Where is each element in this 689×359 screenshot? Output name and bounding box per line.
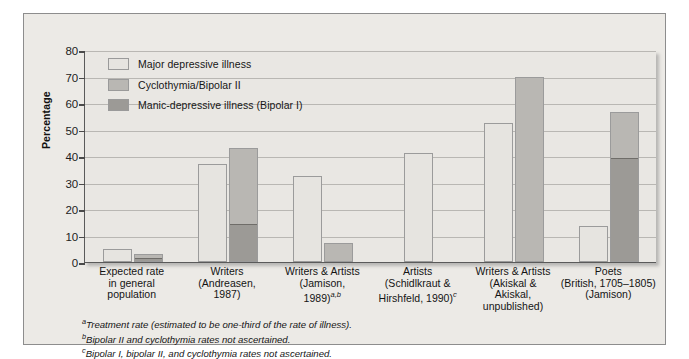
y-axis-tick-label: 60 <box>50 98 78 110</box>
x-axis-category-label: Writers(Andreasen,1987) <box>179 266 274 301</box>
chart-panel: Percentage 01020304050607080 Major depre… <box>23 13 666 345</box>
bar-group <box>562 51 657 262</box>
y-axis-tick-label: 80 <box>50 45 78 57</box>
bar-bipolar-stacked[interactable] <box>515 77 544 263</box>
x-axis-labels: Expected ratein generalpopulationWriters… <box>84 266 656 314</box>
x-axis-category-label: Writers & Artists(Jamison,1989)a,b <box>275 266 370 304</box>
x-axis-category-label: Poets(British, 1705–1805)(Jamison) <box>561 266 656 301</box>
x-axis-category-label: Artists(Schidlkraut &Hirshfeld, 1990)c <box>370 266 465 304</box>
legend-swatch-icon <box>108 99 129 111</box>
x-axis-category-label: Expected ratein generalpopulation <box>84 266 179 301</box>
y-axis-tick-label: 50 <box>50 125 78 137</box>
footnotes: aTreatment rate (estimated to be one-thi… <box>82 316 642 359</box>
bar-bipolar-stacked[interactable] <box>229 148 258 262</box>
bar-major-depressive-illness[interactable] <box>579 226 608 262</box>
bar-group <box>371 51 466 262</box>
bar-bipolar-stacked[interactable] <box>610 112 639 262</box>
figure-container: Percentage 01020304050607080 Major depre… <box>0 0 689 359</box>
y-axis-tick-label: 20 <box>50 204 78 216</box>
bar-segment-bipolar-i <box>611 158 638 261</box>
legend-item[interactable]: Cyclothymia/Bipolar II <box>108 79 303 91</box>
bar-major-depressive-illness[interactable] <box>404 153 433 262</box>
footnote: cBipolar I, bipolar II, and cyclothymia … <box>82 345 642 359</box>
bar-group <box>466 51 561 262</box>
legend-label: Cyclothymia/Bipolar II <box>138 79 241 91</box>
y-axis-tick-label: 0 <box>50 257 78 269</box>
y-axis-tick-label: 70 <box>50 72 78 84</box>
y-axis-tick-label: 40 <box>50 151 78 163</box>
bar-major-depressive-illness[interactable] <box>103 249 132 262</box>
footnote: bBipolar II and cyclothymia rates not as… <box>82 331 642 346</box>
chart-legend: Major depressive illnessCyclothymia/Bipo… <box>108 58 303 120</box>
legend-label: Manic-depressive illness (Bipolar I) <box>138 99 303 111</box>
footnote: aTreatment rate (estimated to be one-thi… <box>82 316 642 331</box>
legend-item[interactable]: Major depressive illness <box>108 58 303 70</box>
bar-segment-bipolar-i <box>135 258 162 261</box>
y-axis-tick <box>79 263 85 265</box>
x-axis-category-label: Writers & Artists(Akiskal &Akiskal,unpub… <box>465 266 560 312</box>
plot-area: Major depressive illnessCyclothymia/Bipo… <box>84 51 656 263</box>
y-axis-tick-label: 10 <box>50 231 78 243</box>
bar-major-depressive-illness[interactable] <box>198 164 227 262</box>
bar-bipolar-stacked[interactable] <box>134 254 163 262</box>
bar-major-depressive-illness[interactable] <box>293 176 322 262</box>
legend-label: Major depressive illness <box>138 58 251 70</box>
legend-item[interactable]: Manic-depressive illness (Bipolar I) <box>108 99 303 111</box>
legend-swatch-icon <box>108 79 129 91</box>
y-axis-labels: Percentage 01020304050607080 <box>46 51 78 263</box>
bar-segment-bipolar-i <box>230 224 257 261</box>
legend-swatch-icon <box>108 58 129 70</box>
bar-major-depressive-illness[interactable] <box>484 123 513 262</box>
bar-bipolar-stacked[interactable] <box>324 243 353 262</box>
y-axis-tick-label: 30 <box>50 178 78 190</box>
